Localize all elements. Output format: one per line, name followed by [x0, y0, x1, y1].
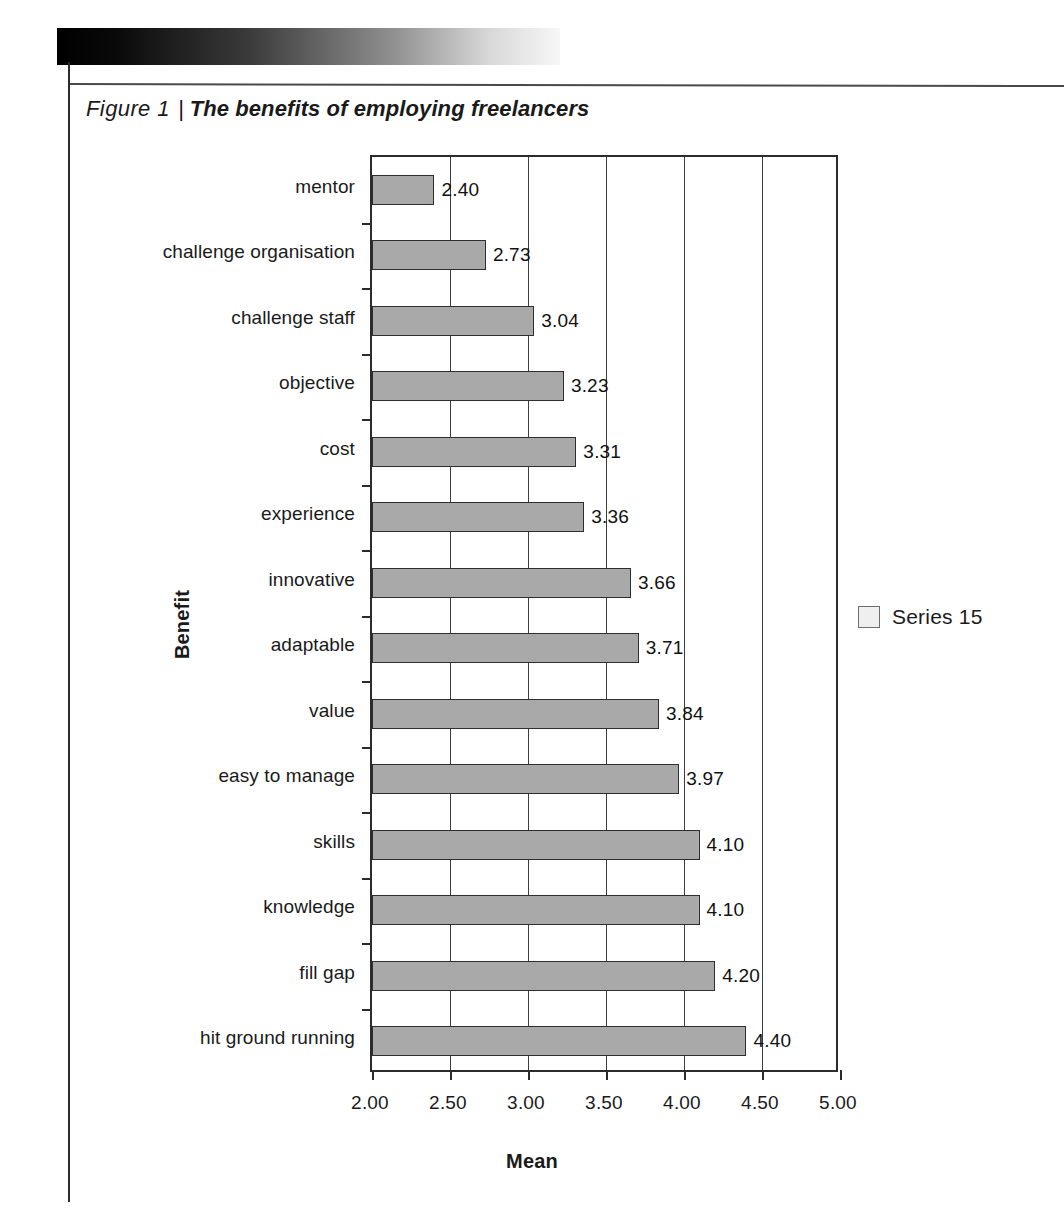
y-axis-tick [362, 419, 372, 421]
x-axis-tick-label: 3.00 [507, 1092, 545, 1114]
bar-row[interactable]: 4.10 [372, 878, 836, 944]
x-axis-title: Mean [0, 1150, 1064, 1173]
y-axis-category-label: innovative [268, 569, 355, 591]
bar-value-label: 2.73 [493, 244, 531, 266]
bar-value-label: 3.97 [686, 768, 724, 790]
y-axis-category-label: fill gap [299, 962, 355, 984]
bar-row[interactable]: 2.73 [372, 223, 836, 289]
y-axis-category-label: knowledge [263, 896, 355, 918]
y-axis-category-label: hit ground running [200, 1027, 355, 1049]
x-axis-tick [606, 1070, 608, 1080]
x-axis-tick [450, 1070, 452, 1080]
y-axis-tick [362, 878, 372, 880]
bar-value-label: 3.36 [591, 506, 629, 528]
bar[interactable] [372, 633, 639, 663]
bar[interactable] [372, 764, 679, 794]
bar-row[interactable]: 3.23 [372, 354, 836, 420]
y-axis-tick [362, 681, 372, 683]
x-axis-tick [684, 1070, 686, 1080]
y-axis-category-label: objective [279, 372, 355, 394]
x-axis-tick [372, 1070, 374, 1080]
x-axis-tick-label: 5.00 [819, 1092, 857, 1114]
bar[interactable] [372, 568, 631, 598]
y-axis-category-label: adaptable [271, 634, 355, 656]
x-axis-tick-label: 2.00 [351, 1092, 389, 1114]
y-axis-tick [362, 747, 372, 749]
y-axis-tick [362, 550, 372, 552]
bar-row[interactable]: 3.66 [372, 550, 836, 616]
y-axis-category-label: skills [313, 831, 355, 853]
bar[interactable] [372, 306, 534, 336]
bar[interactable] [372, 371, 564, 401]
x-axis-tick-label: 2.50 [429, 1092, 467, 1114]
bar-row[interactable]: 4.20 [372, 943, 836, 1009]
x-axis-tick-label: 4.00 [663, 1092, 701, 1114]
x-axis-tick [762, 1070, 764, 1080]
bar-row[interactable]: 3.31 [372, 419, 836, 485]
bar-row[interactable]: 3.04 [372, 288, 836, 354]
bar[interactable] [372, 961, 715, 991]
bar[interactable] [372, 1026, 746, 1056]
y-axis-tick [362, 485, 372, 487]
bar[interactable] [372, 895, 700, 925]
y-axis-tick [362, 223, 372, 225]
bar[interactable] [372, 830, 700, 860]
chart-legend: Series 15 [858, 605, 983, 629]
bar-row[interactable]: 3.84 [372, 681, 836, 747]
bar[interactable] [372, 175, 434, 205]
y-axis-tick [362, 1009, 372, 1011]
y-axis-tick [362, 354, 372, 356]
y-axis-category-label: experience [261, 503, 355, 525]
y-axis-category-labels: mentorchallenge organisationchallenge st… [120, 155, 355, 1072]
bar-row[interactable]: 4.40 [372, 1009, 836, 1075]
x-axis-tick-label: 4.50 [741, 1092, 779, 1114]
y-axis-category-label: value [309, 700, 355, 722]
bar-row[interactable]: 2.40 [372, 157, 836, 223]
y-axis-tick [362, 812, 372, 814]
bar[interactable] [372, 502, 584, 532]
bar-value-label: 4.10 [707, 834, 745, 856]
bar-row[interactable]: 3.36 [372, 485, 836, 551]
legend-label: Series 15 [892, 605, 983, 629]
bar-value-label: 3.66 [638, 572, 676, 594]
bar-value-label: 3.04 [541, 310, 579, 332]
y-axis-tick [362, 616, 372, 618]
y-axis-category-label: mentor [295, 176, 355, 198]
bar[interactable] [372, 240, 486, 270]
y-axis-category-label: easy to manage [218, 765, 355, 787]
y-axis-category-label: cost [320, 438, 355, 460]
bar-value-label: 4.10 [707, 899, 745, 921]
x-axis-tick [528, 1070, 530, 1080]
y-axis-title: Benefit [171, 590, 194, 659]
y-axis-category-label: challenge organisation [163, 241, 355, 263]
bar-value-label: 3.23 [571, 375, 609, 397]
x-axis-tick-labels: 2.002.503.003.504.004.505.00 [370, 1092, 838, 1122]
bar-chart: mentorchallenge organisationchallenge st… [0, 0, 1064, 1227]
bar-row[interactable]: 3.71 [372, 616, 836, 682]
bar-value-label: 3.31 [583, 441, 621, 463]
x-axis-tick [840, 1070, 842, 1080]
y-axis-tick [362, 288, 372, 290]
bar-value-label: 3.84 [666, 703, 704, 725]
bar[interactable] [372, 437, 576, 467]
y-axis-tick [362, 943, 372, 945]
bar-rows: 2.402.733.043.233.313.363.663.713.843.97… [372, 157, 836, 1070]
bar-value-label: 4.40 [753, 1030, 791, 1052]
bar-value-label: 4.20 [722, 965, 760, 987]
bar-row[interactable]: 3.97 [372, 747, 836, 813]
plot-area: 2.402.733.043.233.313.363.663.713.843.97… [370, 155, 838, 1072]
x-axis-tick-label: 3.50 [585, 1092, 623, 1114]
bar[interactable] [372, 699, 659, 729]
bar-row[interactable]: 4.10 [372, 812, 836, 878]
bar-value-label: 3.71 [646, 637, 684, 659]
y-axis-category-label: challenge staff [231, 307, 355, 329]
bar-value-label: 2.40 [441, 179, 479, 201]
legend-swatch-icon [858, 606, 880, 628]
